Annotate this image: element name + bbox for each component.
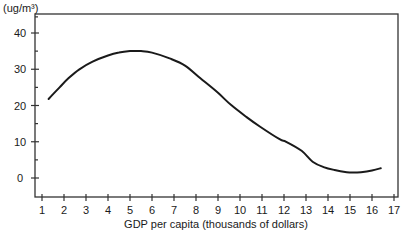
x-tick-label: 7 <box>171 204 177 216</box>
y-tick-label: 10 <box>14 136 26 148</box>
y-tick-label: 20 <box>14 100 26 112</box>
x-tick-label: 1 <box>39 204 45 216</box>
x-tick-label: 12 <box>278 204 290 216</box>
x-axis-title: GDP per capita (thousands of dollars) <box>124 218 308 230</box>
x-tick-label: 4 <box>105 204 111 216</box>
x-tick-label: 8 <box>193 204 199 216</box>
x-tick-label: 5 <box>127 204 133 216</box>
plot-frame <box>35 14 398 197</box>
x-tick-label: 16 <box>366 204 378 216</box>
x-tick-label: 6 <box>149 204 155 216</box>
y-axis-unit-label: (ug/m³) <box>3 2 38 14</box>
y-tick-label: 30 <box>14 63 26 75</box>
x-tick-label: 17 <box>388 204 400 216</box>
x-tick-label: 14 <box>322 204 334 216</box>
line-chart: 010203040 1234567891011121314151617 (ug/… <box>0 0 403 232</box>
x-tick-label: 9 <box>215 204 221 216</box>
x-tick-label: 2 <box>61 204 67 216</box>
x-tick-label: 15 <box>344 204 356 216</box>
y-tick-label: 0 <box>17 172 23 184</box>
x-tick-label: 10 <box>234 204 246 216</box>
x-tick-label: 13 <box>300 204 312 216</box>
x-tick-label: 11 <box>256 204 267 216</box>
data-line <box>49 51 381 173</box>
plot-border <box>35 14 398 197</box>
y-tick-label: 40 <box>14 27 26 39</box>
x-tick-label: 3 <box>83 204 89 216</box>
